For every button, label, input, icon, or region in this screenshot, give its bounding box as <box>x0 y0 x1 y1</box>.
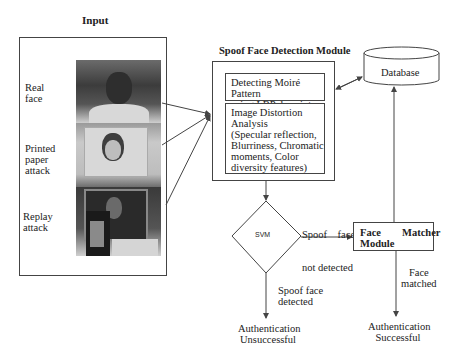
input-label-printed-attack: Printed paper attack <box>25 143 55 176</box>
replay-attack-photo <box>76 187 161 256</box>
edge-label-matched: Face matched <box>401 267 437 289</box>
moire-pattern-box: Detecting Moiré Pattern using LBP descri… <box>225 73 325 101</box>
printed-attack-photo <box>76 123 161 187</box>
face-matcher-module-box: Face Matcher Module <box>353 222 434 251</box>
database-label: Database <box>381 67 419 78</box>
outcome-unsuccessful: Authentication Unsuccessful <box>238 323 298 345</box>
svm-label: SVM <box>255 231 270 238</box>
edge-label-not-detected: Spoof face not detected <box>302 207 355 284</box>
image-distortion-box: Image Distortion Analysis (Specular refl… <box>225 103 325 174</box>
real-face-photo <box>76 60 161 123</box>
input-label-replay-attack: Replay attack <box>23 211 53 233</box>
outcome-successful: Authentication Successful <box>368 321 428 343</box>
input-label-real-face: Real face <box>25 82 44 104</box>
input-title: Input <box>82 15 108 26</box>
spoof-module-title: Spoof Face Detection Module <box>219 45 351 56</box>
edge-label-detected: Spoof face detected <box>278 285 323 307</box>
